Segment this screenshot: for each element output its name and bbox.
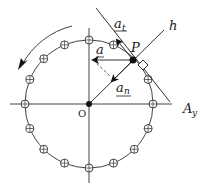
normal-acceleration-vector (112, 60, 133, 81)
origin-label: O (78, 108, 86, 119)
origin-point (86, 101, 92, 107)
dashed-guide-line (93, 60, 110, 76)
tangent-line (96, 8, 170, 102)
diagram-canvas: O P h A y a t a a n (0, 0, 201, 195)
total-accel-label: a (96, 42, 104, 57)
normal-accel-label: a n (116, 80, 131, 96)
tangential-accel-label: a t (114, 16, 127, 33)
svg-text:a: a (114, 16, 122, 31)
rotation-arrowhead-icon (18, 58, 28, 70)
svg-text:n: n (124, 86, 130, 96)
svg-text:y: y (191, 108, 198, 118)
point-p-label: P (130, 40, 140, 55)
svg-text:a: a (116, 80, 124, 95)
line-ay-label: A y (182, 101, 198, 118)
line-h-label: h (169, 18, 177, 33)
point-p (130, 57, 137, 64)
svg-text:a: a (96, 42, 104, 57)
svg-text:A: A (182, 101, 192, 116)
svg-text:t: t (122, 23, 126, 33)
right-angle-marker (138, 60, 148, 70)
